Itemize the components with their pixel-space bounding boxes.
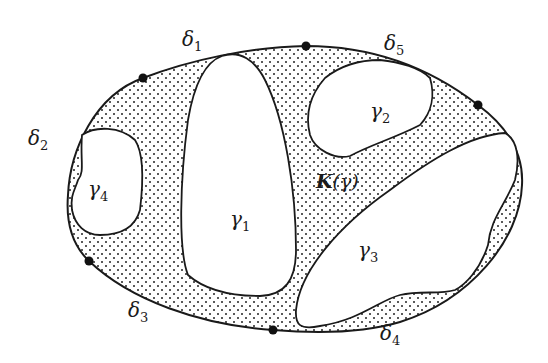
boundary-point xyxy=(85,257,94,266)
boundary-point xyxy=(269,326,278,335)
label-delta5: δ5 xyxy=(384,31,404,58)
boundary-point xyxy=(139,74,148,83)
label-delta2: δ2 xyxy=(28,126,48,153)
label-region-k-gamma: K(γ) xyxy=(315,170,359,192)
label-delta3: δ3 xyxy=(128,298,148,325)
label-delta1: δ1 xyxy=(182,27,202,54)
boundary-point xyxy=(302,42,311,51)
label-delta4: δ4 xyxy=(380,321,400,348)
hole-gamma4 xyxy=(72,129,143,235)
region-diagram: δ1 δ5 δ2 δ3 δ4 γ1 γ2 γ3 γ4 K(γ) xyxy=(0,0,548,363)
boundary-point xyxy=(474,101,483,110)
